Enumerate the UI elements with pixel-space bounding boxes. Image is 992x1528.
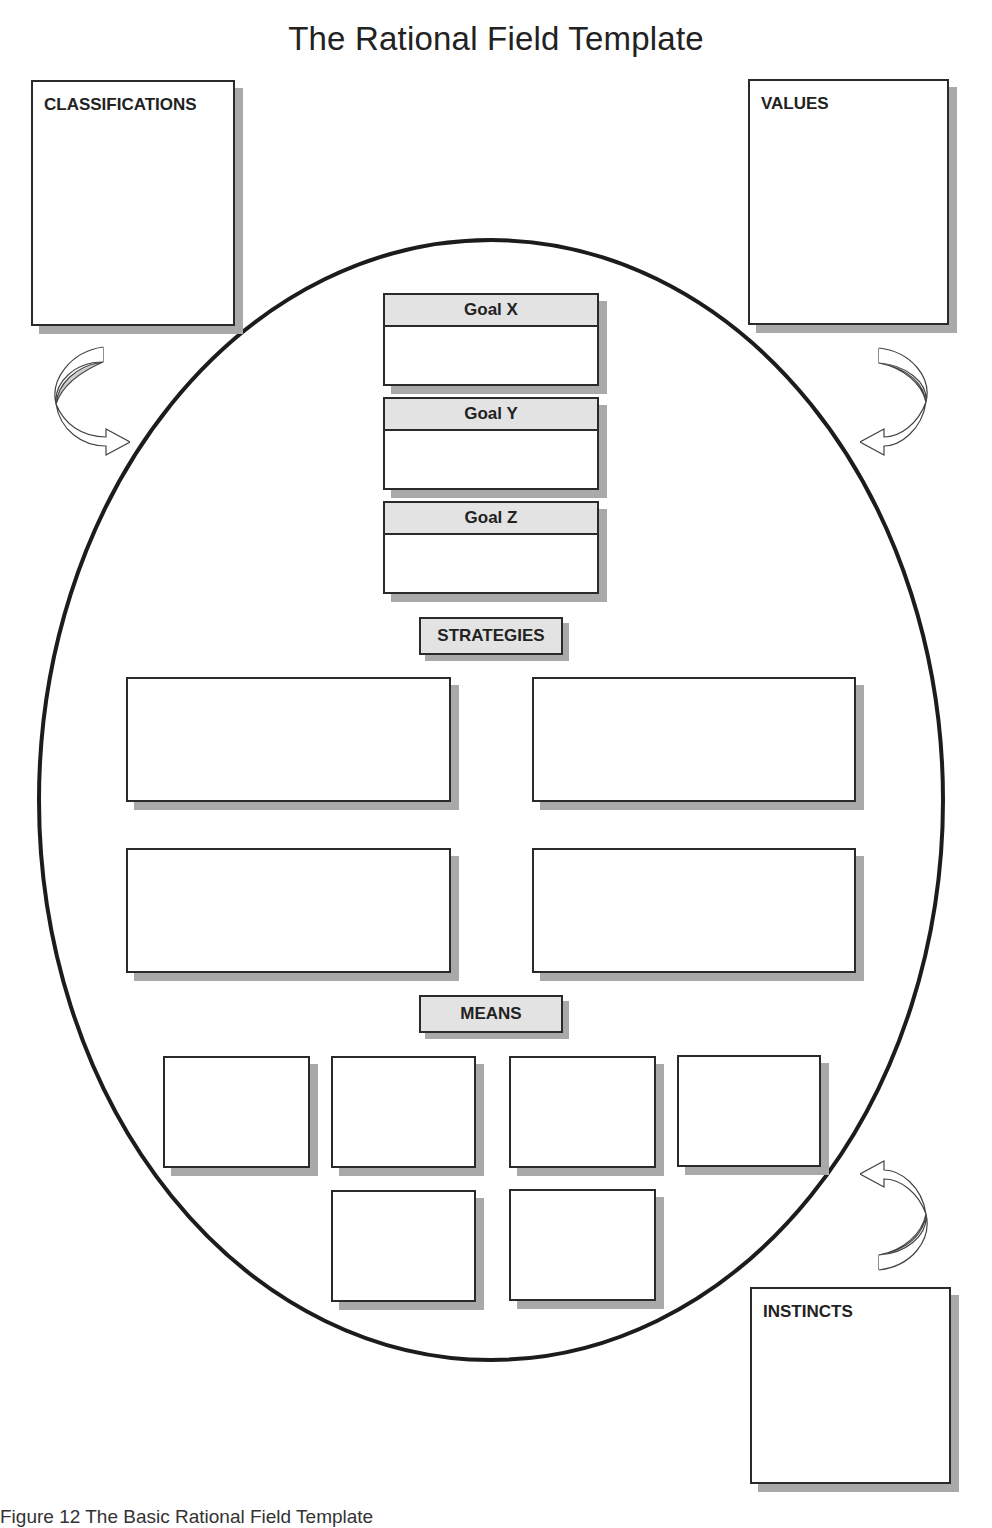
classifications-box: CLASSIFICATIONS: [31, 80, 235, 326]
goal-x-box: Goal X: [383, 293, 599, 386]
strategies-label: STRATEGIES: [419, 617, 563, 655]
means-box-1: [163, 1056, 310, 1168]
strategy-box-4: [532, 848, 856, 973]
instincts-box: INSTINCTS: [750, 1287, 951, 1484]
means-box-3: [509, 1056, 656, 1168]
goal-x-header: Goal X: [385, 295, 597, 327]
means-box-6: [509, 1189, 656, 1301]
means-label: MEANS: [419, 995, 563, 1033]
goal-y-box: Goal Y: [383, 397, 599, 490]
means-box-2: [331, 1056, 476, 1168]
means-box-4: [677, 1055, 821, 1167]
curved-arrow-icon-instincts: [860, 1150, 950, 1275]
goal-y-header: Goal Y: [385, 399, 597, 431]
strategy-box-2: [532, 677, 856, 802]
curved-arrow-icon-classifications: [40, 342, 130, 467]
values-label: VALUES: [761, 94, 829, 114]
goal-z-header: Goal Z: [385, 503, 597, 535]
values-box: VALUES: [748, 79, 949, 325]
strategy-box-3: [126, 848, 451, 973]
strategy-box-1: [126, 677, 451, 802]
instincts-label: INSTINCTS: [763, 1302, 853, 1322]
means-box-5: [331, 1190, 476, 1302]
goal-z-box: Goal Z: [383, 501, 599, 594]
curved-arrow-icon-values: [860, 344, 950, 469]
classifications-label: CLASSIFICATIONS: [44, 95, 197, 115]
figure-caption: Figure 12 The Basic Rational Field Templ…: [0, 1506, 373, 1528]
